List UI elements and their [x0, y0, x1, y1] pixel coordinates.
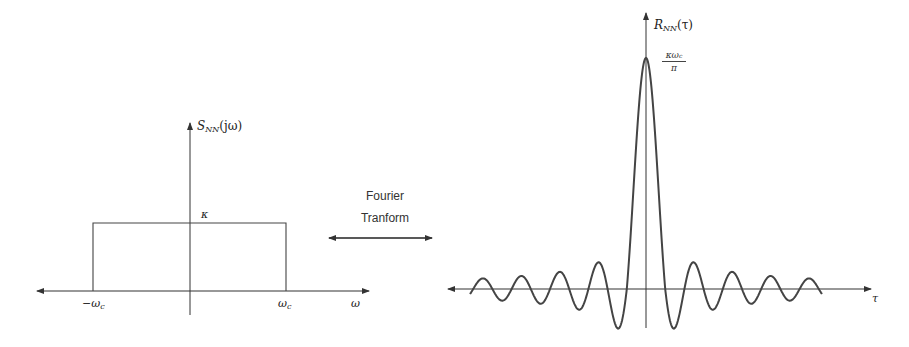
autocorr-y-label-sub: NN [663, 24, 677, 33]
diagram: SNN(jω) κ −ωc ωc ω Fourier Tranform RNN(… [0, 0, 909, 347]
tick-label: ω [278, 297, 287, 310]
psd-y-label: SNN(jω) [197, 119, 242, 134]
psd-tick-pos-wc: ωc [278, 297, 291, 311]
psd-x-label: ω [351, 297, 360, 310]
autocorr-y-label-main: R [654, 18, 663, 32]
peak-numerator-sub: c [679, 52, 682, 59]
psd-y-label-main: S [197, 119, 205, 133]
tick-sub: c [287, 302, 291, 311]
tick-label: −ω [82, 297, 100, 310]
psd-tick-neg-wc: −ωc [82, 297, 105, 311]
psd-y-label-arg: (jω) [219, 119, 242, 133]
figure-canvas [0, 0, 909, 347]
psd-level-label: κ [201, 208, 208, 221]
transform-label-line2: Tranform [353, 211, 417, 225]
autocorr-x-label: τ [872, 292, 878, 305]
autocorr-y-label: RNN(τ) [654, 18, 693, 33]
autocorrelation-plot [448, 13, 871, 329]
peak-numerator-text: κω [666, 50, 679, 60]
peak-value-fraction: κωc π [662, 50, 686, 73]
autocorr-y-label-arg: (τ) [677, 18, 693, 32]
peak-denominator: π [662, 62, 686, 73]
transform-label-line1: Fourier [360, 189, 410, 203]
psd-y-label-sub: NN [205, 125, 219, 134]
tick-sub: c [100, 302, 104, 311]
peak-numerator: κωc [662, 50, 686, 62]
